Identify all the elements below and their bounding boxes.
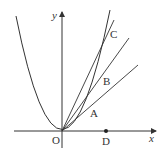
- x-axis-label: x: [148, 132, 154, 144]
- line-oa: [62, 65, 138, 131]
- origin-label: O: [52, 134, 60, 146]
- diagram-canvas: y x O A B C D: [0, 0, 165, 153]
- point-b-label: B: [103, 75, 110, 87]
- point-d-label: D: [102, 135, 110, 147]
- y-axis-label: y: [51, 9, 57, 21]
- diagram: y x O A B C D: [0, 0, 165, 153]
- point-d-marker: [104, 129, 108, 133]
- point-c-label: C: [110, 28, 117, 40]
- point-a-label: A: [90, 107, 98, 119]
